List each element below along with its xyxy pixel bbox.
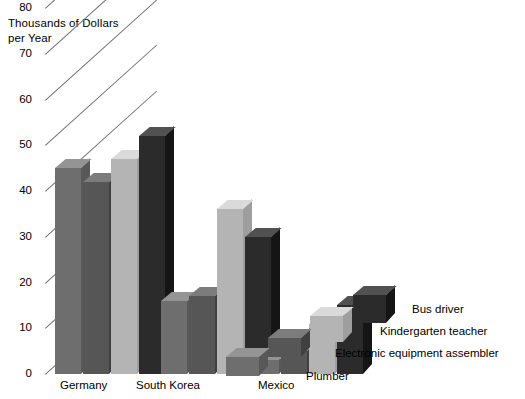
y-tick-label-10: 10 (6, 321, 32, 333)
x-axis-label-south-korea: South Korea (136, 379, 200, 391)
y-tick-label-40: 40 (6, 184, 32, 196)
bar-south-korea-electronic-equipment-assembler (189, 296, 215, 374)
y-tick-label-70: 70 (6, 47, 32, 59)
gridline-50 (45, 45, 157, 146)
bar-south-korea-plumber (161, 301, 187, 374)
y-tick-label-0: 0 (6, 367, 32, 379)
legend-swatch-assembler (268, 338, 301, 357)
y-tick-label-60: 60 (6, 93, 32, 105)
bar-germany-plumber (55, 168, 81, 374)
legend-swatch-teacher (310, 316, 343, 342)
bar-front (83, 182, 109, 374)
legend-swatch-front (310, 316, 343, 342)
y-tick-label-30: 30 (6, 230, 32, 242)
bar-chart: Thousands of Dollars per Year 0102030405… (0, 0, 525, 399)
legend-label-teacher: Kindergarten teacher (380, 325, 487, 337)
legend-label-plumber: Plumber (306, 370, 349, 382)
legend-label-assembler: Electronic equipment assembler (335, 347, 499, 359)
y-tick-label-20: 20 (6, 276, 32, 288)
legend-label-busdriver: Bus driver (412, 303, 464, 315)
bar-front (111, 159, 137, 374)
x-axis-label-germany: Germany (60, 379, 107, 391)
legend-swatch-plumber (226, 357, 259, 376)
y-tick-label-50: 50 (6, 138, 32, 150)
legend-swatch-busdriver (353, 295, 386, 323)
bar-front (189, 296, 215, 374)
y-tick-label-80: 80 (6, 1, 32, 13)
bar-front (161, 301, 187, 374)
legend-swatch-front (226, 357, 259, 376)
legend-swatch-front (268, 338, 301, 357)
bar-germany-electronic-equipment-assembler (83, 182, 109, 374)
y-axis-title: Thousands of Dollars per Year (8, 16, 119, 46)
x-axis-label-mexico: Mexico (258, 379, 294, 391)
bar-front (55, 168, 81, 374)
legend-swatch-front (353, 295, 386, 323)
bar-germany-kindergarten-teacher (111, 159, 137, 374)
